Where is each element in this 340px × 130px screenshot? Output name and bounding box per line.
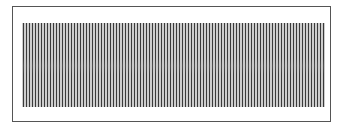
vertical-line [35, 23, 37, 107]
vertical-line [83, 23, 85, 107]
vertical-line [140, 23, 142, 107]
vertical-line [167, 23, 169, 107]
vertical-line [272, 23, 274, 107]
vertical-line [200, 23, 202, 107]
vertical-line [137, 23, 139, 107]
vertical-line [221, 23, 223, 107]
vertical-line [233, 23, 235, 107]
vertical-line [104, 23, 106, 107]
vertical-line [314, 23, 316, 107]
vertical-line [245, 23, 247, 107]
vertical-line [242, 23, 244, 107]
vertical-line [44, 23, 46, 107]
vertical-line [305, 23, 307, 107]
vertical-line [113, 23, 115, 107]
vertical-line [197, 23, 199, 107]
vertical-line [260, 23, 262, 107]
vertical-line [275, 23, 277, 107]
vertical-line [269, 23, 271, 107]
vertical-line [146, 23, 148, 107]
vertical-line [92, 23, 94, 107]
vertical-line [53, 23, 55, 107]
vertical-line [308, 23, 310, 107]
vertical-line [299, 23, 301, 107]
vertical-line [134, 23, 136, 107]
vertical-line [116, 23, 118, 107]
vertical-line [182, 23, 184, 107]
vertical-line [317, 23, 319, 107]
vertical-line [239, 23, 241, 107]
vertical-line [248, 23, 250, 107]
vertical-line [98, 23, 100, 107]
vertical-line [302, 23, 304, 107]
vertical-line [311, 23, 313, 107]
vertical-line [59, 23, 61, 107]
vertical-line [179, 23, 181, 107]
vertical-line [86, 23, 88, 107]
vertical-line [278, 23, 280, 107]
vertical-line [143, 23, 145, 107]
vertical-line [131, 23, 133, 107]
vertical-line [41, 23, 43, 107]
vertical-line [215, 23, 217, 107]
vertical-line [224, 23, 226, 107]
vertical-line [23, 23, 25, 107]
vertical-line [80, 23, 82, 107]
vertical-line [89, 23, 91, 107]
vertical-line [287, 23, 289, 107]
vertical-line [56, 23, 58, 107]
vertical-line [38, 23, 40, 107]
vertical-line [74, 23, 76, 107]
vertical-line [29, 23, 31, 107]
vertical-line [47, 23, 49, 107]
vertical-line [161, 23, 163, 107]
vertical-line [32, 23, 34, 107]
vertical-line [128, 23, 130, 107]
vertical-line [158, 23, 160, 107]
vertical-line [251, 23, 253, 107]
vertical-line [281, 23, 283, 107]
vertical-line [122, 23, 124, 107]
vertical-line [209, 23, 211, 107]
vertical-line [284, 23, 286, 107]
vertical-line [206, 23, 208, 107]
vertical-line [149, 23, 151, 107]
vertical-line [170, 23, 172, 107]
vertical-line [194, 23, 196, 107]
vertical-line [296, 23, 298, 107]
vertical-line [257, 23, 259, 107]
vertical-line [62, 23, 64, 107]
vertical-line [125, 23, 127, 107]
vertical-line [254, 23, 256, 107]
vertical-line [68, 23, 70, 107]
vertical-line [101, 23, 103, 107]
vertical-line [323, 23, 325, 107]
vertical-line [119, 23, 121, 107]
vertical-line [290, 23, 292, 107]
vertical-line [191, 23, 193, 107]
vertical-line [266, 23, 268, 107]
vertical-line-pattern [22, 23, 325, 107]
vertical-line [155, 23, 157, 107]
vertical-line [77, 23, 79, 107]
vertical-line [188, 23, 190, 107]
vertical-line [236, 23, 238, 107]
vertical-line [263, 23, 265, 107]
vertical-line [230, 23, 232, 107]
vertical-line [152, 23, 154, 107]
vertical-line [26, 23, 28, 107]
vertical-line [293, 23, 295, 107]
vertical-line [65, 23, 67, 107]
vertical-line [185, 23, 187, 107]
vertical-line [95, 23, 97, 107]
vertical-line [173, 23, 175, 107]
vertical-line [164, 23, 166, 107]
vertical-line [218, 23, 220, 107]
vertical-line [71, 23, 73, 107]
vertical-line [203, 23, 205, 107]
vertical-line [212, 23, 214, 107]
vertical-line [320, 23, 322, 107]
vertical-line [176, 23, 178, 107]
vertical-line [227, 23, 229, 107]
vertical-line [50, 23, 52, 107]
